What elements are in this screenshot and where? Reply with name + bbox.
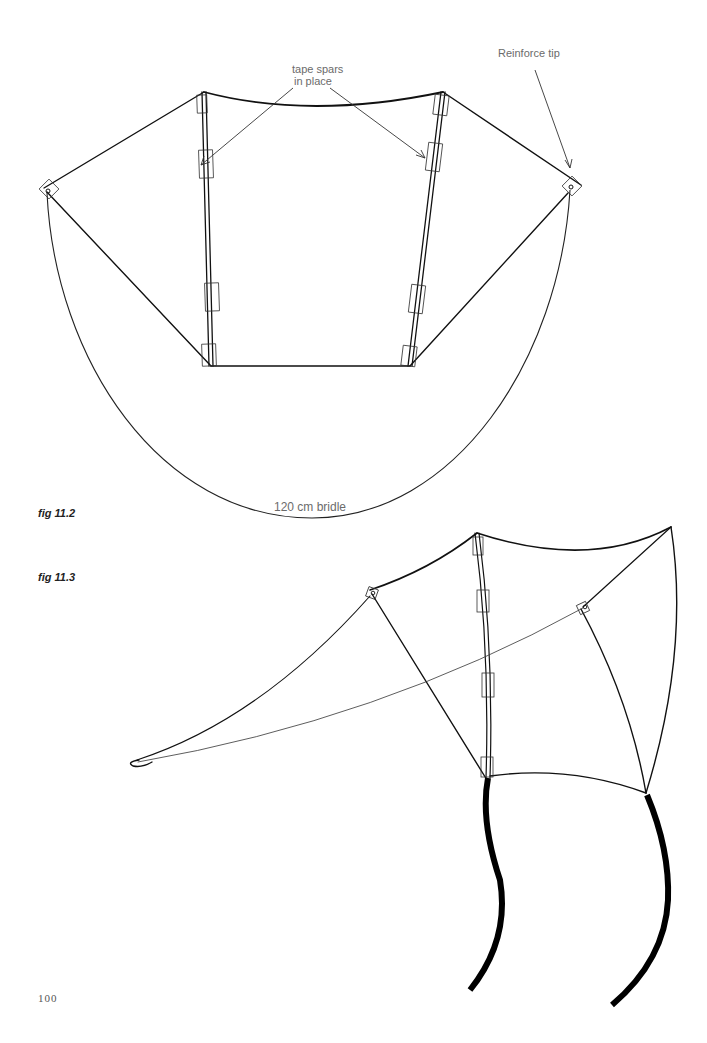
- label-bridle-length: 120 cm bridle: [274, 501, 346, 513]
- kite-diagram-fig-11-3: [0, 0, 707, 1043]
- figure-caption-11-2: fig 11.2: [38, 507, 75, 519]
- book-page: tape spars in place Reinforce tip 120 cm…: [0, 0, 707, 1043]
- figure-caption-11-3: fig 11.3: [38, 571, 75, 583]
- label-reinforce-tip: Reinforce tip: [498, 47, 560, 59]
- page-number: 100: [38, 992, 58, 1004]
- label-tape-spars-line2: in place: [294, 75, 332, 87]
- label-tape-spars-line1: tape spars: [292, 63, 343, 75]
